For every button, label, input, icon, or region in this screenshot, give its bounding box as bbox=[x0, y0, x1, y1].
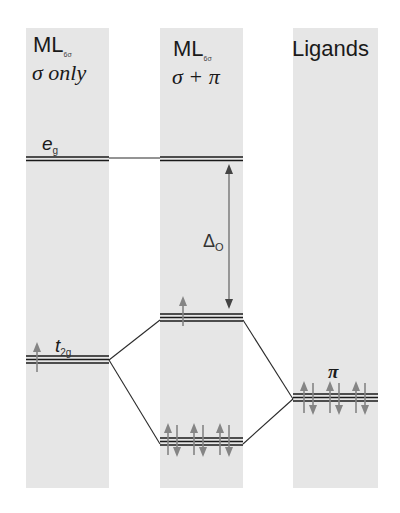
column-sigma-only-bg bbox=[26, 28, 109, 488]
header-sigma-pi-line2: σ + π bbox=[172, 64, 221, 89]
connector-antibonding-to-ligand bbox=[243, 320, 293, 399]
header-ligands: Ligands bbox=[292, 36, 369, 61]
header-sigma-only-line2: σ only bbox=[32, 60, 86, 85]
mo-diagram: ML6σ σ only ML6σ σ + π Ligands eg t2g bbox=[0, 0, 400, 513]
column-sigma-pi-bg bbox=[160, 28, 243, 488]
connector-t2g-to-antibonding bbox=[109, 320, 160, 360]
label-pi: π bbox=[328, 361, 339, 382]
column-ligands-bg bbox=[293, 28, 378, 488]
connector-bonding-to-ligand bbox=[243, 399, 293, 444]
connector-t2g-to-bonding bbox=[109, 360, 160, 444]
